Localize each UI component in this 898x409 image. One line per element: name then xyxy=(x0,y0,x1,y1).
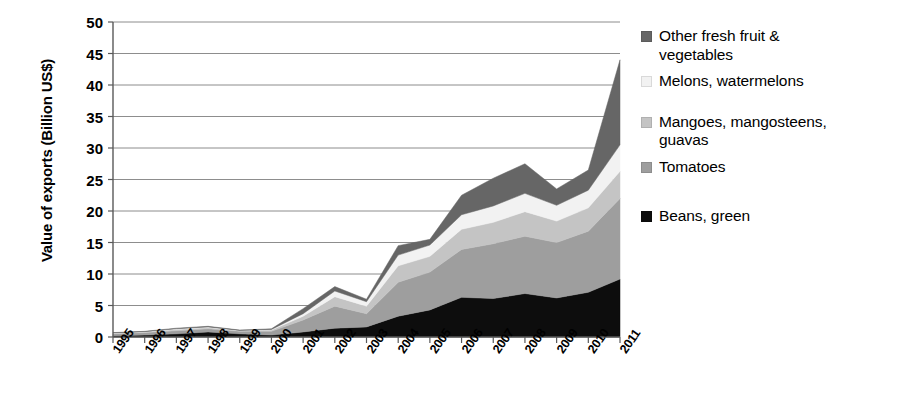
y-tick-label: 30 xyxy=(69,141,103,156)
legend-item[interactable]: Melons, watermelons xyxy=(641,72,891,91)
legend-color-swatch xyxy=(641,76,652,87)
y-tick-label: 50 xyxy=(69,15,103,30)
y-tick-label: 25 xyxy=(69,173,103,188)
legend-item[interactable]: Beans, green xyxy=(641,207,891,226)
chart-figure: Value of exports (Billion US$) 504540353… xyxy=(0,0,898,409)
chart-legend: Other fresh fruit & vegetablesMelons, wa… xyxy=(641,27,891,225)
y-tick-label: 40 xyxy=(69,78,103,93)
y-tick-label: 20 xyxy=(69,204,103,219)
y-tick-label: 10 xyxy=(69,267,103,282)
legend-color-swatch xyxy=(641,211,652,222)
y-tick-label: 15 xyxy=(69,236,103,251)
y-tick-label: 45 xyxy=(69,47,103,62)
plot-area: 50454035302520151050 1995199619971998199… xyxy=(0,0,660,409)
y-tick-label: 5 xyxy=(69,299,103,314)
legend-item-label: Tomatoes xyxy=(659,158,725,177)
legend-item-label: Beans, green xyxy=(659,207,750,226)
legend-item-label: Other fresh fruit & vegetables xyxy=(659,27,809,64)
legend-item[interactable]: Tomatoes xyxy=(641,158,891,177)
legend-color-swatch xyxy=(641,31,652,42)
y-tick-label: 35 xyxy=(69,110,103,125)
y-tick-label: 0 xyxy=(69,330,103,345)
legend-item-label: Mangoes, mangosteens, guavas xyxy=(659,113,869,150)
legend-item[interactable]: Other fresh fruit & vegetables xyxy=(641,27,891,64)
legend-color-swatch xyxy=(641,162,652,173)
legend-color-swatch xyxy=(641,117,652,128)
legend-item[interactable]: Mangoes, mangosteens, guavas xyxy=(641,113,891,150)
legend-item-label: Melons, watermelons xyxy=(659,72,804,91)
